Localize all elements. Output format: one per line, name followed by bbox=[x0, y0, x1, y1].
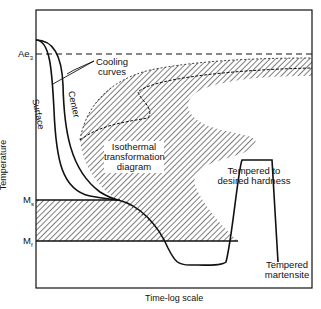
mf-label: Mf bbox=[23, 236, 33, 250]
ae3-sub: 3 bbox=[30, 55, 33, 61]
tempered-hardness-label: Tempered to desired hardness bbox=[216, 166, 292, 186]
ae3-label: Ae3 bbox=[18, 49, 33, 63]
isothermal-diagram-label: Isothermal transformation diagram bbox=[104, 141, 164, 173]
ms-label: Ms bbox=[23, 195, 34, 209]
ae3-text: Ae bbox=[18, 48, 30, 59]
ms-text: M bbox=[23, 194, 31, 205]
mf-sub: f bbox=[31, 242, 33, 248]
cooling-curves-label: Cooling curves bbox=[92, 57, 132, 77]
mf-text: M bbox=[23, 235, 31, 246]
tempered-martensite-label: Tempered martensite bbox=[262, 260, 312, 280]
y-axis-label: Temperature bbox=[0, 140, 8, 191]
cooling-curves-leader-2 bbox=[53, 61, 94, 84]
x-axis-label: Time-log scale bbox=[145, 293, 203, 303]
ms-sub: s bbox=[31, 201, 34, 207]
